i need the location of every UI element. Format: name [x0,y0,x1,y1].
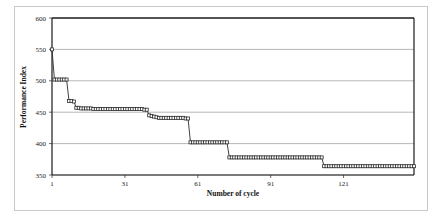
series-marker [413,165,416,168]
series-marker [187,117,190,120]
y-tick-label: 500 [36,77,47,85]
x-tick-label: 31 [121,180,129,188]
figure-container: 350400450500550600 1316191121 Number of … [0,0,441,223]
x-axis-title: Number of cycle [207,189,260,198]
y-tick-label: 550 [36,46,47,54]
x-tick-label: 61 [194,180,202,188]
series-marker [225,141,228,144]
y-axis-title: Performance Index [19,66,28,128]
x-tick-label: 1 [50,180,54,188]
chart-plot-wrapper: 350400450500550600 1316191121 Number of … [0,0,441,223]
series-marker [320,156,323,159]
series-marker [51,48,54,51]
y-tick-label: 400 [36,140,47,148]
y-tick-label: 450 [36,109,47,117]
x-tick-label: 121 [338,180,349,188]
data-series-performance-index [51,48,416,168]
y-tick-label: 350 [36,172,47,180]
performance-index-line-chart: 350400450500550600 1316191121 Number of … [0,0,441,223]
y-tick-label: 600 [36,15,47,23]
x-tick-label: 91 [267,180,275,188]
y-axis-tick-labels: 350400450500550600 [36,15,47,180]
plot-frame [52,18,414,175]
series-marker [72,100,75,103]
x-axis-tick-labels: 1316191121 [50,180,349,188]
series-marker [145,108,148,111]
gridlines-group [49,18,414,178]
series-marker [65,78,68,81]
